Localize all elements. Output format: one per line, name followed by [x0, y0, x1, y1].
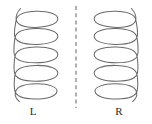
left-helix-group — [14, 9, 58, 102]
left-helix-label: L — [30, 105, 37, 117]
figure-canvas: L R — [0, 0, 152, 124]
left-helix-coil — [14, 9, 58, 102]
helix-chirality-figure: L R — [0, 0, 152, 124]
right-helix-coil — [94, 9, 138, 102]
right-helix-group — [94, 9, 138, 102]
right-helix-label: R — [115, 105, 123, 117]
